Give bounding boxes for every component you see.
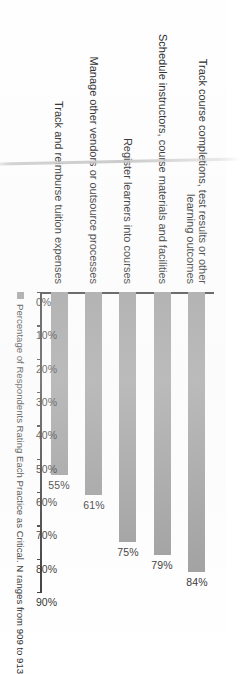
bar-row: 61% — [85, 292, 102, 592]
bar — [154, 292, 171, 555]
bar-value-label: 79% — [152, 559, 173, 571]
legend-note: Percentage of Respondents Rating Each Pr… — [15, 304, 26, 674]
bar-row: 75% — [120, 292, 137, 592]
legend: Percentage of Respondents Rating Each Pr… — [15, 292, 26, 674]
category-label-group: Track course completions, test results o… — [42, 0, 214, 290]
bar — [120, 292, 137, 542]
bar-value-label: 61% — [83, 499, 104, 511]
category-label: Schedule instructors, course materials a… — [156, 34, 169, 284]
bar-value-label: 55% — [49, 479, 70, 491]
bar — [85, 292, 102, 495]
bar — [188, 292, 205, 572]
bar-row: 84% — [188, 292, 205, 592]
category-label: Track and reimburse tuition expenses — [53, 101, 66, 284]
category-label: Manage other vendors or outsource proces… — [87, 57, 100, 284]
axis-tick — [37, 592, 42, 593]
legend-square-icon — [17, 292, 24, 299]
bar-row: 55% — [51, 292, 68, 592]
bar-row: 79% — [154, 292, 171, 592]
bar-value-label: 84% — [186, 576, 207, 588]
bar — [51, 292, 68, 475]
category-label: Track course completions, test results o… — [184, 59, 209, 284]
bar-group: 84%79%75%61%55% — [42, 292, 214, 592]
axis-tick-label: 90% — [36, 596, 57, 608]
bar-value-label: 75% — [117, 546, 138, 558]
category-label: Register learners into courses — [122, 138, 135, 284]
